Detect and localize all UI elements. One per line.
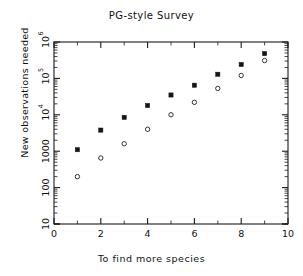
data-point-open — [99, 156, 103, 160]
y-tick-label: 106 — [37, 31, 51, 48]
data-point-open — [145, 127, 149, 131]
y-tick-label: 10 — [40, 218, 51, 230]
plot-axes — [54, 42, 288, 224]
scatter-plot: 0246810101001000104105106 — [0, 0, 303, 276]
svg-text:10: 10 — [40, 109, 51, 121]
data-point-open — [216, 86, 220, 90]
y-tick-label: 1000 — [40, 139, 51, 163]
data-point-open — [192, 100, 196, 104]
svg-text:10: 10 — [40, 218, 51, 230]
data-point-filled — [192, 83, 196, 87]
svg-text:100: 100 — [40, 179, 51, 197]
data-point-filled — [75, 148, 79, 152]
x-axis-label: To find more species — [0, 253, 303, 264]
data-point-filled — [216, 72, 220, 76]
svg-text:6: 6 — [37, 31, 45, 35]
y-tick-label: 100 — [40, 179, 51, 197]
axis-tick-labels: 0246810101001000104105106 — [37, 31, 295, 239]
svg-text:4: 4 — [37, 104, 45, 108]
data-point-open — [75, 174, 79, 178]
axis-ticks — [54, 42, 288, 224]
x-tick-label: 0 — [51, 228, 57, 239]
data-point-filled — [263, 52, 267, 56]
data-point-filled — [239, 62, 243, 66]
svg-text:1000: 1000 — [40, 139, 51, 163]
data-point-open — [239, 73, 243, 77]
y-tick-label: 105 — [37, 68, 51, 85]
data-points — [75, 52, 267, 179]
svg-text:10: 10 — [40, 36, 51, 48]
data-point-filled — [99, 128, 103, 132]
x-tick-label: 8 — [238, 228, 244, 239]
data-point-filled — [169, 93, 173, 97]
svg-text:10: 10 — [40, 72, 51, 84]
data-point-open — [122, 142, 126, 146]
data-point-open — [169, 113, 173, 117]
data-point-filled — [146, 103, 150, 107]
x-tick-label: 10 — [282, 228, 294, 239]
svg-text:5: 5 — [37, 68, 45, 72]
chart-figure: PG-style Survey 024681010100100010410510… — [0, 0, 303, 276]
x-tick-label: 4 — [145, 228, 151, 239]
y-axis-label: New observations needed — [19, 3, 30, 183]
x-tick-label: 6 — [191, 228, 197, 239]
data-point-filled — [122, 115, 126, 119]
y-tick-label: 104 — [37, 104, 51, 121]
data-point-open — [262, 58, 266, 62]
x-tick-label: 2 — [98, 228, 104, 239]
